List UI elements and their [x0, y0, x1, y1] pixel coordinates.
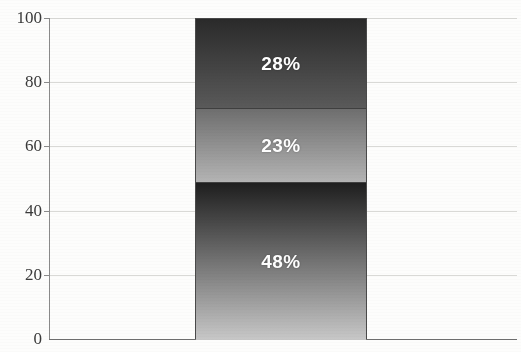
- bar-segment-top[interactable]: 28%: [196, 19, 366, 109]
- y-tick-label-80: 80: [2, 73, 42, 90]
- y-tick-40-wrap: 40: [0, 211, 42, 212]
- chart-page: 100 80 60 40 20 0 28% 23%: [0, 0, 521, 352]
- bar-segment-top-label: 28%: [261, 53, 301, 75]
- y-tick-80-wrap: 80: [0, 82, 42, 83]
- y-tick-0-wrap: 0: [0, 339, 42, 340]
- plot-area: 100 80 60 40 20 0 28% 23%: [0, 0, 521, 352]
- y-tick-label-40: 40: [2, 202, 42, 219]
- bar-segment-bottom-label: 48%: [261, 251, 301, 273]
- y-axis-line: [49, 18, 50, 339]
- y-tick-label-60: 60: [2, 137, 42, 154]
- bar-segment-middle-label: 23%: [261, 135, 301, 157]
- y-tick-label-100: 100: [2, 9, 42, 26]
- y-tick-label-20: 20: [2, 266, 42, 283]
- y-tick-100-wrap: 100: [0, 18, 42, 19]
- y-tick-label-0: 0: [2, 330, 42, 347]
- stacked-bar[interactable]: 28% 23% 48%: [195, 18, 367, 339]
- bar-segment-middle[interactable]: 23%: [196, 109, 366, 183]
- y-tick-60-wrap: 60: [0, 146, 42, 147]
- y-tick-20-wrap: 20: [0, 275, 42, 276]
- bar-segment-bottom[interactable]: 48%: [196, 183, 366, 340]
